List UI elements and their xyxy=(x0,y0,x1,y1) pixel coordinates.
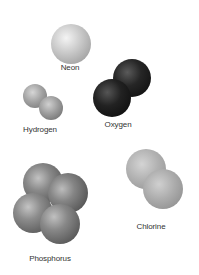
chlorine-atom-2 xyxy=(143,169,183,209)
molecule-diagram: Neon Hydrogen Oxygen Phosphorus Chlorine xyxy=(0,0,199,275)
chlorine-molecule: Chlorine xyxy=(0,0,199,275)
chlorine-label: Chlorine xyxy=(137,222,166,231)
